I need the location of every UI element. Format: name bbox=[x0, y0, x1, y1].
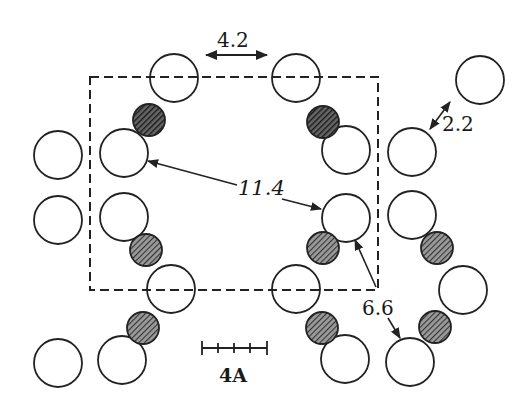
distance-arrow-6-6-a bbox=[355, 240, 376, 287]
open-circle bbox=[100, 193, 148, 241]
open-circle bbox=[386, 338, 434, 386]
hatched-circle bbox=[133, 104, 165, 136]
open-circle bbox=[456, 56, 504, 104]
scale-bar-label: 4A bbox=[219, 364, 247, 386]
open-circle bbox=[388, 128, 436, 176]
open-circle bbox=[34, 196, 82, 244]
open-circle bbox=[388, 191, 436, 239]
open-circle bbox=[100, 129, 148, 177]
hatched-circle bbox=[306, 312, 338, 344]
open-circle bbox=[34, 339, 82, 387]
distance-arrow-11-4-b bbox=[282, 199, 321, 209]
open-circle bbox=[439, 266, 487, 314]
scale-bar bbox=[202, 341, 267, 355]
distance-label-6-6: 6.6 bbox=[362, 296, 394, 320]
hatched-circle bbox=[127, 312, 159, 344]
hatched-circle bbox=[421, 232, 453, 264]
hatched-circle bbox=[419, 311, 451, 343]
hatched-circle bbox=[307, 106, 339, 138]
distance-label-2-2: 2.2 bbox=[442, 112, 474, 136]
hatched-circle bbox=[307, 232, 339, 264]
open-circle bbox=[34, 131, 82, 179]
hatched-circles bbox=[127, 104, 453, 344]
distance-arrow-11-4-a bbox=[148, 161, 237, 185]
distance-label-4-2: 4.2 bbox=[217, 28, 249, 52]
distance-arrow-6-6-b bbox=[388, 318, 400, 338]
packing-diagram bbox=[0, 0, 515, 415]
hatched-circle bbox=[130, 234, 162, 266]
distance-label-11-4: 11.4 bbox=[238, 176, 285, 200]
